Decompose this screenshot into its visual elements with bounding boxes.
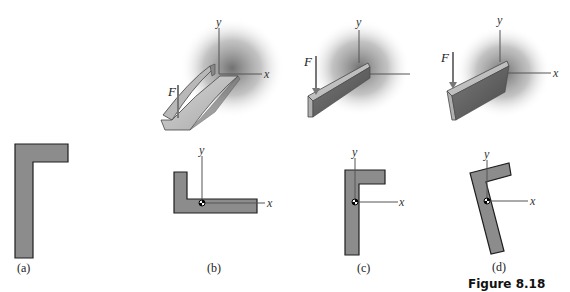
x-label-d: x <box>529 194 536 208</box>
panel-b-3d: y x F <box>161 15 284 130</box>
y-label-c: y <box>351 145 358 159</box>
panel-b-section: y x (b) <box>174 143 273 275</box>
y-label-3d-b: y <box>215 15 222 29</box>
panel-c-3d: y F <box>303 15 410 117</box>
panel-a: (a) <box>15 144 68 275</box>
panel-d-3d: y x F <box>440 13 559 120</box>
angle-section-c <box>345 170 385 255</box>
panel-d-section: y x (d) <box>470 147 536 274</box>
x-label-3d-b: x <box>263 67 270 81</box>
x-label-c: x <box>398 195 405 209</box>
figure-8-18: (a) y x F y x (b) y F <box>0 0 570 292</box>
force-label-c: F <box>303 54 313 69</box>
panel-label-b: (b) <box>207 261 221 275</box>
panel-label-c: (c) <box>357 261 370 275</box>
y-label-3d-d: y <box>496 13 503 27</box>
force-label-b: F <box>167 84 177 99</box>
y-label-d: y <box>483 147 490 161</box>
angle-section-a <box>15 144 68 258</box>
figure-caption: Figure 8.18 <box>468 277 545 291</box>
panel-c-section: y x (c) <box>345 145 405 275</box>
y-label-3d-c: y <box>355 15 362 29</box>
angle-section-b <box>174 172 257 213</box>
y-label-b: y <box>198 143 205 157</box>
panel-label-d: (d) <box>492 260 506 274</box>
x-label-3d-d: x <box>552 66 559 80</box>
angle-section-d <box>470 163 511 254</box>
force-label-d: F <box>440 50 450 65</box>
x-label-b: x <box>266 196 273 210</box>
panel-label-a: (a) <box>17 261 30 275</box>
